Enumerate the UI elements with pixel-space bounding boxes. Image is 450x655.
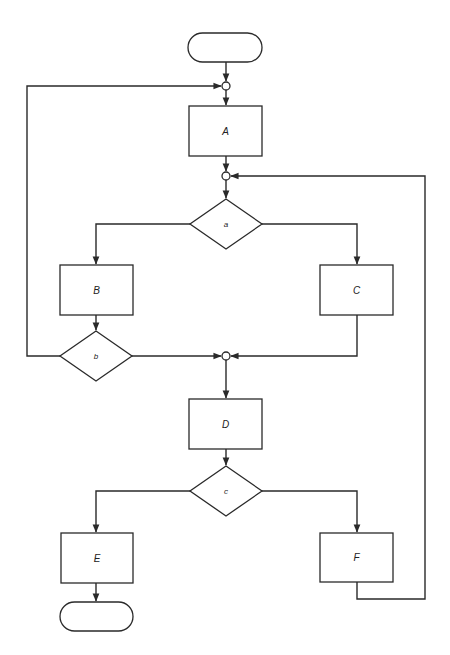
process-C-label: C xyxy=(353,285,361,296)
process-E-label: E xyxy=(94,553,101,564)
decision-b-label: b xyxy=(94,352,99,361)
decision-a: a xyxy=(190,199,262,249)
process-F-label: F xyxy=(353,552,360,563)
edge-c-to-E xyxy=(96,491,190,532)
flowchart-canvas: A B C D E F xyxy=(0,0,450,655)
process-B: B xyxy=(60,265,133,315)
process-A: A xyxy=(189,106,262,156)
decision-a-label: a xyxy=(224,220,229,229)
process-F: F xyxy=(320,533,393,582)
merge-connector-2 xyxy=(222,172,230,180)
decision-diamonds: a b c xyxy=(60,199,262,516)
merge-connector-3 xyxy=(222,352,230,360)
end-terminal xyxy=(60,602,133,631)
decision-c: c xyxy=(190,466,262,516)
flowchart-svg: A B C D E F xyxy=(0,0,450,655)
process-C: C xyxy=(320,265,393,315)
merge-connector-1 xyxy=(222,82,230,90)
start-terminal xyxy=(188,33,262,62)
process-E: E xyxy=(61,533,133,583)
process-A-label: A xyxy=(221,126,229,137)
decision-c-label: c xyxy=(224,487,228,496)
edge-a-to-B xyxy=(96,224,190,264)
edge-a-to-C xyxy=(262,224,357,264)
decision-b: b xyxy=(60,331,132,381)
edge-c-to-F xyxy=(262,491,357,532)
edge-C-to-merge3 xyxy=(231,315,357,356)
process-B-label: B xyxy=(93,285,100,296)
process-D: D xyxy=(189,399,262,449)
process-D-label: D xyxy=(222,419,229,430)
